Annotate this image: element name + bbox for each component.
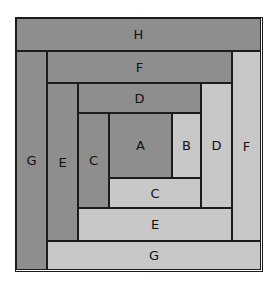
piece-h-top: H bbox=[16, 18, 261, 51]
piece-f-top: F bbox=[47, 51, 232, 83]
piece-a-center: A bbox=[109, 113, 172, 178]
piece-c-left: C bbox=[78, 113, 109, 208]
piece-g-left: G bbox=[16, 51, 47, 270]
piece-b-right: B bbox=[172, 113, 201, 178]
piece-e-left: E bbox=[47, 83, 78, 241]
piece-e-bottom: E bbox=[78, 208, 232, 241]
piece-f-right: F bbox=[232, 51, 261, 241]
piece-d-right: D bbox=[201, 83, 232, 208]
log-cabin-block: H G F F G E D D E C A B C bbox=[15, 17, 263, 272]
piece-d-top: D bbox=[78, 83, 201, 113]
piece-g-bottom: G bbox=[47, 241, 261, 270]
piece-c-bottom: C bbox=[109, 178, 201, 208]
